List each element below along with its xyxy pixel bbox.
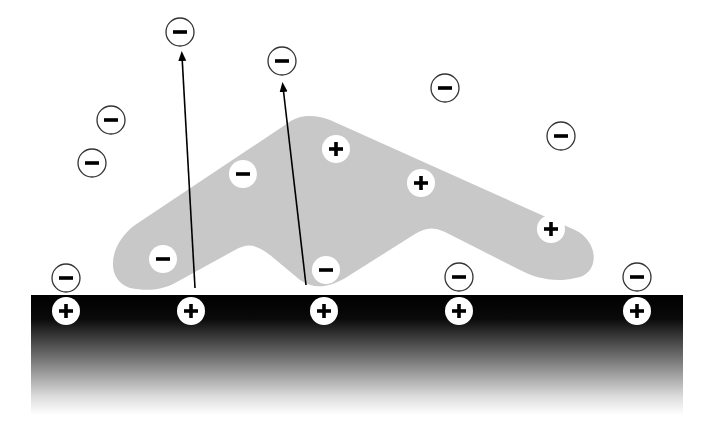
plus-charge-icon <box>310 297 338 325</box>
minus-charge-icon <box>431 74 459 102</box>
plus-charge-icon <box>623 297 651 325</box>
minus-charge-icon <box>229 160 257 188</box>
minus-charge-icon <box>445 263 473 291</box>
minus-charge-icon <box>547 122 575 150</box>
minus-charge-icon <box>149 245 177 273</box>
plus-charge-icon <box>177 297 205 325</box>
charged-surface <box>31 295 683 415</box>
plus-charge-icon <box>445 297 473 325</box>
minus-charge-icon <box>623 263 651 291</box>
minus-charge-icon <box>78 149 106 177</box>
counterion-release-diagram <box>0 0 712 434</box>
plus-charge-icon <box>407 169 435 197</box>
plus-charge-icon <box>52 297 80 325</box>
minus-charge-icon <box>312 256 340 284</box>
minus-charge-icon <box>52 264 80 292</box>
diagram-stage <box>0 0 712 434</box>
minus-charge-icon <box>97 106 125 134</box>
minus-charge-icon <box>166 18 194 46</box>
plus-charge-icon <box>322 135 350 163</box>
minus-charge-icon <box>268 47 296 75</box>
polyelectrolyte-molecule <box>113 116 594 290</box>
plus-charge-icon <box>537 215 565 243</box>
